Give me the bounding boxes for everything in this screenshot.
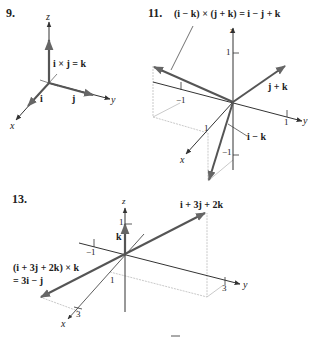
cross-product-label-line2: = 3i − j: [13, 276, 43, 286]
vector-i: [28, 83, 49, 106]
x-tick-3: 3: [76, 310, 81, 319]
z-axis-label: z: [122, 197, 126, 206]
vector-i-label: i: [40, 94, 43, 104]
y-axis-label: y: [111, 95, 115, 105]
figure-9-number: 9.: [6, 7, 15, 19]
vector-j-plus-k-label: j + k: [268, 82, 288, 92]
vector-k-label: k: [116, 232, 122, 242]
y-axis: [79, 243, 240, 284]
vector-j-label: j: [72, 94, 75, 104]
x-tick-1: 1: [110, 276, 115, 285]
vector-i-minus-k: [209, 102, 233, 180]
vector-i-minus-j-plus-k: [154, 67, 233, 102]
z-tick-1: 1: [226, 48, 231, 57]
x-axis-back: [49, 74, 57, 83]
y-tick-1: 1: [284, 118, 289, 127]
vector-i-3j-2k-label: i + 3j + 2k: [180, 200, 223, 210]
x-tick-1: 1: [204, 124, 209, 133]
vector-j: [49, 83, 93, 95]
z-tick-neg1: −1: [222, 148, 232, 157]
y-axis-label: y: [303, 116, 307, 126]
vector-i-minus-k-label: i − k: [247, 132, 266, 142]
z-axis-label: z: [230, 26, 234, 35]
z-tick-1: 1: [119, 218, 124, 227]
leader-line: [171, 26, 193, 70]
diagram-canvas: [0, 0, 309, 337]
figure-13-number: 13.: [12, 193, 27, 205]
y-tick-3: 3: [222, 284, 227, 293]
figure-11-equation: (i − k) × (j + k) = i − j + k: [174, 9, 280, 19]
leader-line: [228, 124, 247, 136]
guide-line: [153, 103, 180, 117]
y-tick-neg1: −1: [86, 248, 96, 257]
vector-i-3j-2k: [125, 213, 205, 254]
vector-k-label: i × j = k: [53, 59, 86, 69]
y-axis-label: y: [243, 280, 247, 290]
y-tick-neg1: −1: [176, 96, 186, 105]
figure-11-number: 11.: [148, 7, 162, 19]
figure-9: [16, 22, 110, 120]
x-axis-label: x: [180, 155, 184, 165]
x-axis-label: x: [10, 121, 14, 131]
cross-product-label-line1: (i + 3j + 2k) × k: [13, 263, 79, 273]
x-axis-label: x: [61, 319, 65, 329]
z-axis-label: z: [46, 12, 50, 22]
